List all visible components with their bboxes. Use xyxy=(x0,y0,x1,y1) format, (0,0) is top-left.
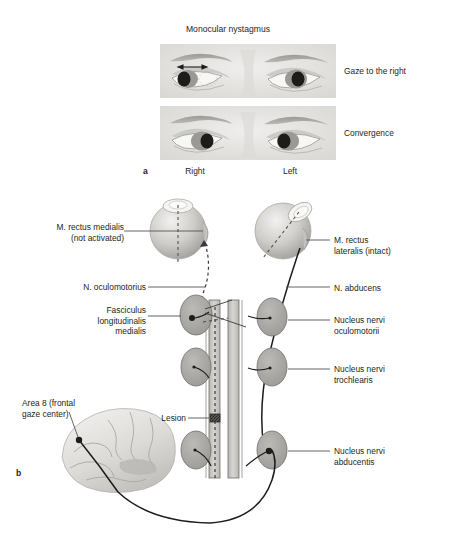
label-nucleus-nervi-abducentis: Nucleus nervi abducentis xyxy=(334,446,385,467)
label-fasciculus-longitudinalis-medialis: Fasciculus longitudinalis medialis xyxy=(62,305,146,337)
eyeball-right xyxy=(255,198,315,259)
eyeball-left xyxy=(150,199,208,262)
label-area-8: Area 8 (frontal gaze center) xyxy=(22,398,118,419)
nucleus-left-trochlear xyxy=(181,348,211,386)
panel-b-letter: b xyxy=(16,468,21,478)
brainstem-tracts xyxy=(206,300,242,478)
nucleus-left-abducens xyxy=(181,431,211,469)
nucleus-nervi-abducentis xyxy=(246,431,287,469)
label-n-abducens: N. abducens xyxy=(334,283,381,294)
figure-internuclear-ophthalmoplegia: Monocular nystagmus xyxy=(0,0,456,533)
label-nucleus-nervi-oculomotorii: Nucleus nervi oculomotorii xyxy=(334,315,385,336)
nucleus-nervi-oculomotorii xyxy=(248,298,287,336)
label-n-oculomotorius: N. oculomotorius xyxy=(42,282,146,293)
label-lesion: Lesion xyxy=(138,413,186,424)
panel-b-illustration xyxy=(0,0,456,533)
nucleus-left-oculomotor xyxy=(180,295,212,335)
label-nucleus-nervi-trochlearis: Nucleus nervi trochlearis xyxy=(334,364,385,385)
label-m-rectus-lateralis: M. rectus lateralis (intact) xyxy=(334,235,391,256)
lesion-marker xyxy=(210,414,220,422)
nucleus-nervi-trochlearis xyxy=(248,348,287,386)
label-m-rectus-medialis: M. rectus medialis (not activated) xyxy=(18,222,124,243)
n-abducens-axon xyxy=(262,248,300,448)
